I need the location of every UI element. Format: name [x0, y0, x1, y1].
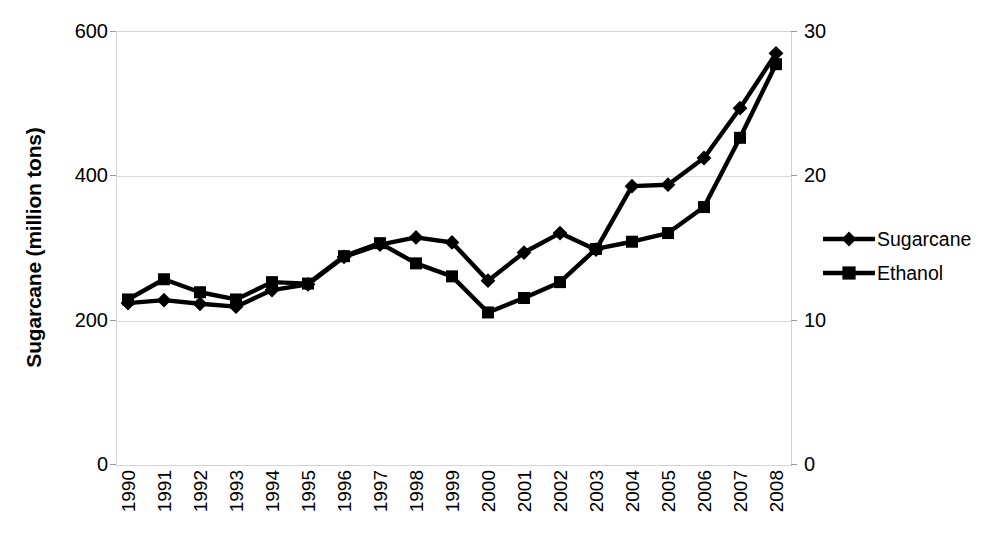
data-point-diamond: [193, 296, 208, 311]
y-tick-label: 200: [8, 310, 116, 330]
x-tick-label: 2005: [653, 466, 683, 546]
data-point-diamond: [409, 230, 424, 245]
series-ethanol: [122, 58, 782, 318]
data-point-square: [770, 58, 782, 70]
x-tick-label: 2006: [689, 466, 719, 546]
data-point-diamond: [157, 293, 172, 308]
y2-tick-label: 20: [790, 165, 860, 185]
data-point-square: [590, 243, 602, 255]
x-tick-label: 1998: [401, 466, 431, 546]
series-line: [128, 53, 776, 306]
data-point-square: [662, 227, 674, 239]
y-tick-label: 0: [8, 454, 116, 474]
x-tick-label: 1996: [329, 466, 359, 546]
x-tick-label: 1999: [437, 466, 467, 546]
data-point-square: [446, 270, 458, 282]
data-point-square: [734, 132, 746, 144]
x-tick-label: 2007: [725, 466, 755, 546]
x-tick-label: 2003: [581, 466, 611, 546]
x-tick-label: 1990: [113, 466, 143, 546]
x-tick-label: 2001: [509, 466, 539, 546]
data-point-square: [302, 278, 314, 290]
x-tick-label: 1993: [221, 466, 251, 546]
left-axis-tick-labels: 0200400600: [0, 0, 116, 553]
x-tick-label: 1997: [365, 466, 395, 546]
series-layer: [116, 31, 790, 464]
chart-legend: Sugarcane Ethanol: [822, 222, 986, 290]
x-axis-tick-labels: 1990199119921993199419951996199719981999…: [116, 466, 790, 553]
x-tick-label: 1995: [293, 466, 323, 546]
x-tick-label: 2000: [473, 466, 503, 546]
x-tick-label: 2008: [761, 466, 791, 546]
y2-tick-label: 10: [790, 310, 860, 330]
data-point-square: [374, 237, 386, 249]
y-tick-label: 400: [8, 165, 116, 185]
data-point-square: [338, 250, 350, 262]
data-point-square: [122, 293, 134, 305]
data-point-square: [626, 236, 638, 248]
data-point-square: [194, 286, 206, 298]
x-tick-label: 2002: [545, 466, 575, 546]
data-point-square: [230, 293, 242, 305]
data-point-square: [518, 292, 530, 304]
x-tick-label: 1991: [149, 466, 179, 546]
data-point-square: [266, 276, 278, 288]
legend-item-sugarcane: Sugarcane: [822, 222, 986, 256]
diamond-marker-icon: [822, 229, 876, 249]
x-tick-label: 1994: [257, 466, 287, 546]
data-point-square: [554, 276, 566, 288]
y-tick-label: 600: [8, 21, 116, 41]
x-tick-label: 1992: [185, 466, 215, 546]
data-point-square: [482, 306, 494, 318]
y2-tick-label: 0: [790, 454, 860, 474]
y2-tick-label: 30: [790, 21, 860, 41]
legend-label-sugarcane: Sugarcane: [877, 229, 971, 249]
x-tick-label: 2004: [617, 466, 647, 546]
legend-label-ethanol: Ethanol: [877, 263, 943, 283]
data-point-square: [158, 273, 170, 285]
data-point-square: [698, 201, 710, 213]
chart-container: Sugarcane (million tons) 0200400600 0102…: [0, 0, 986, 553]
legend-item-ethanol: Ethanol: [822, 256, 986, 290]
square-marker-icon: [822, 263, 876, 283]
data-point-square: [410, 257, 422, 269]
